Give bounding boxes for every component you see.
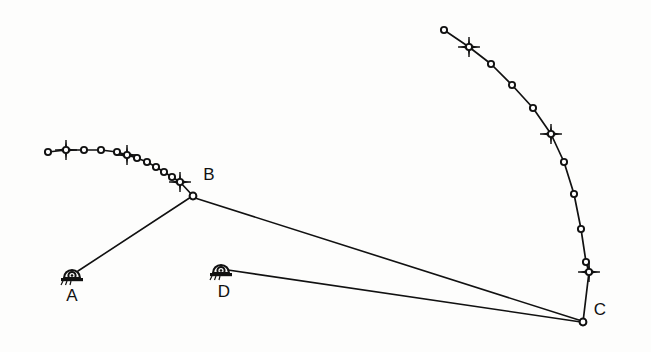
line-d-c (228, 270, 581, 322)
station-node-c (580, 319, 587, 326)
observation-arcs-group (48, 30, 589, 322)
survey-diagram-canvas: ADBC (0, 0, 651, 352)
observation-point-marker (98, 147, 104, 153)
observation-point-marker (441, 27, 447, 33)
right-arc (444, 30, 589, 322)
observation-point-marker (169, 174, 175, 180)
observation-point-marker (571, 191, 577, 197)
observation-point-marker (530, 105, 536, 111)
observation-point-marker (114, 149, 120, 155)
observation-point-marker (134, 155, 140, 161)
observation-point-marker (509, 82, 515, 88)
observation-point-marker (153, 164, 159, 170)
observation-point-marker (45, 149, 51, 155)
station-node-b (190, 193, 197, 200)
observation-point-marker (548, 131, 554, 137)
station-labels-group: ADBC (66, 165, 606, 319)
station-label-b: B (203, 165, 214, 184)
instrument-stations-group (61, 193, 586, 326)
observation-point-marker (561, 159, 567, 165)
line-a-b (78, 197, 191, 271)
sight-lines-group (78, 197, 582, 322)
observation-markers-group (45, 27, 600, 325)
observation-point-marker (144, 159, 150, 165)
survey-diagram-svg: ADBC (0, 0, 651, 352)
station-label-a: A (66, 286, 78, 305)
observation-point-marker (586, 269, 592, 275)
station-label-d: D (218, 282, 230, 301)
observation-point-marker (466, 44, 472, 50)
observation-point-marker (578, 226, 584, 232)
observation-point-marker (583, 259, 589, 265)
observation-point-marker (63, 147, 69, 153)
observation-point-marker (161, 169, 167, 175)
left-arc (48, 150, 193, 196)
observation-point-marker (81, 147, 87, 153)
line-b-c (195, 198, 582, 321)
theodolite-icon (61, 270, 83, 285)
theodolite-icon (210, 265, 232, 280)
station-label-c: C (594, 300, 606, 319)
observation-point-marker (124, 152, 130, 158)
observation-point-marker (488, 61, 494, 67)
observation-point-marker (177, 179, 183, 185)
